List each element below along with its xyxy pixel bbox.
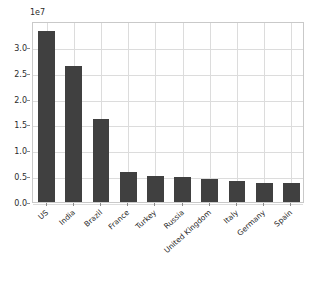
plot-area: [32, 22, 304, 203]
y-axis-tick-mark: [27, 125, 30, 126]
bar[interactable]: [201, 179, 218, 202]
x-axis-tick-label-text: United Kingdom: [162, 208, 213, 255]
x-axis-tick-label-text: Spain: [273, 208, 295, 229]
x-axis-tick-label: Spain: [273, 208, 295, 229]
y-axis-tick-label: 1.0: [14, 147, 27, 156]
x-axis-tick-label-text: Turkey: [134, 208, 158, 231]
bar[interactable]: [256, 183, 273, 202]
x-axis-tick-label: Germany: [236, 208, 268, 238]
x-axis-tick-label: Turkey: [134, 208, 158, 231]
x-axis-tick-label-text: Russia: [162, 208, 186, 231]
bar-chart-figure: 1e7 0.00.51.01.52.02.53.0 USIndiaBrazilF…: [0, 0, 320, 281]
x-axis-tick-label-text: US: [36, 208, 50, 222]
bar[interactable]: [174, 177, 191, 202]
bar[interactable]: [65, 66, 82, 202]
y-axis-tick-label: 2.0: [14, 95, 27, 104]
y-axis-tick-mark: [27, 74, 30, 75]
y-axis-offset-label: 1e7: [30, 8, 45, 17]
bar[interactable]: [147, 176, 164, 202]
x-axis-tick-label: India: [57, 208, 77, 227]
bars-series: [33, 23, 303, 202]
x-axis-tick-label: United Kingdom: [162, 208, 213, 255]
x-axis-tick-mark: [236, 203, 237, 206]
y-axis-tick-mark: [27, 203, 30, 204]
x-axis-tick-labels: USIndiaBrazilFranceTurkeyRussiaUnited Ki…: [32, 203, 304, 273]
x-axis-tick-mark: [263, 203, 264, 206]
y-axis-tick-label: 0.5: [14, 173, 27, 182]
y-axis-tick-mark: [27, 151, 30, 152]
bar[interactable]: [283, 183, 300, 202]
x-axis-tick-label-text: Italy: [222, 208, 240, 226]
x-axis-tick-mark: [209, 203, 210, 206]
y-axis-tick-label: 2.5: [14, 69, 27, 78]
bar[interactable]: [229, 181, 246, 202]
x-axis-tick-label: US: [36, 208, 50, 222]
y-axis-tick-labels: 0.00.51.01.52.02.53.0: [0, 22, 27, 203]
bar[interactable]: [120, 172, 137, 203]
x-axis-tick-label: Italy: [222, 208, 240, 226]
x-axis-tick-mark: [290, 203, 291, 206]
x-axis-tick-mark: [154, 203, 155, 206]
x-axis-tick-mark: [100, 203, 101, 206]
x-axis-tick-label-text: France: [107, 208, 132, 231]
x-axis-tick-label-text: Germany: [236, 208, 268, 238]
x-axis-tick-mark: [46, 203, 47, 206]
y-axis-tick-label: 0.0: [14, 199, 27, 208]
x-axis-tick-label-text: India: [57, 208, 77, 227]
bar[interactable]: [93, 119, 110, 202]
y-axis-tick-mark: [27, 48, 30, 49]
bar[interactable]: [38, 31, 55, 202]
x-axis-tick-mark: [127, 203, 128, 206]
x-axis-tick-label: France: [107, 208, 132, 231]
x-axis-tick-label: Russia: [162, 208, 186, 231]
y-axis-tick-label: 1.5: [14, 121, 27, 130]
y-axis-tick-mark: [27, 177, 30, 178]
y-axis-tick-label: 3.0: [14, 43, 27, 52]
x-axis-tick-mark: [182, 203, 183, 206]
y-axis-tick-mark: [27, 100, 30, 101]
x-axis-tick-label-text: Brazil: [82, 208, 104, 229]
x-axis-tick-label: Brazil: [82, 208, 104, 229]
x-axis-tick-mark: [73, 203, 74, 206]
